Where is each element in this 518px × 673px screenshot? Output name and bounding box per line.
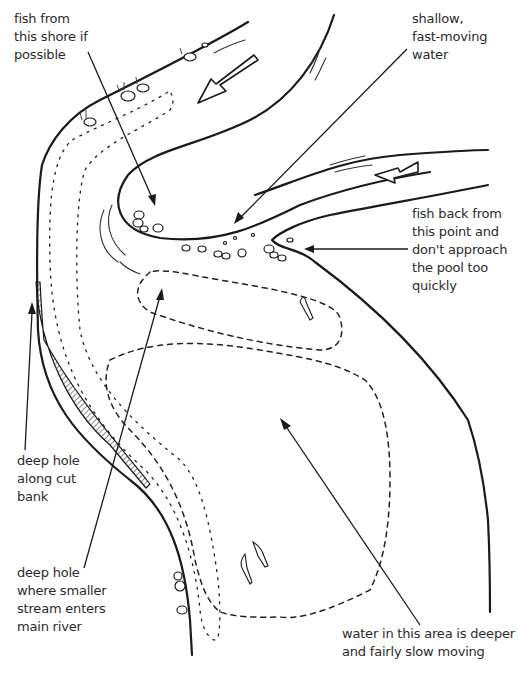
tributary-upper-bank [255, 150, 488, 195]
leader-deep-hole-cut-bank [25, 302, 36, 450]
label-shallow-water: shallow, fast-moving water [412, 10, 487, 64]
main-river-left-bank [37, 22, 248, 655]
pool-outline-small [138, 271, 342, 350]
label-fish-back: fish back from this point and don't appr… [412, 205, 507, 295]
label-deep-hole-stream: deep hole where smaller stream enters ma… [17, 564, 106, 636]
flow-arrow-tributary [375, 162, 418, 183]
leader-deep-slow-water [280, 418, 420, 625]
label-fish-from-shore: fish from this shore if possible [14, 10, 88, 64]
label-deep-slow-water: water in this area is deeper and fairly … [342, 625, 515, 661]
channel-outline-left [50, 92, 220, 640]
rocks-upper-shore [80, 43, 208, 126]
leader-fish-back [304, 245, 408, 253]
flow-arrow-main [198, 55, 258, 103]
label-deep-hole-cut-bank: deep hole along cut bank [17, 452, 80, 506]
